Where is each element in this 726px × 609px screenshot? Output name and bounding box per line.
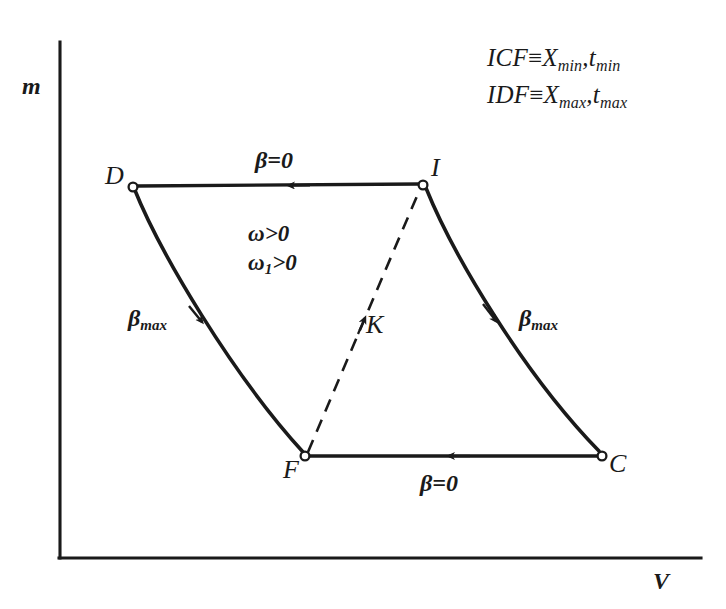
edge-D-I [137,184,420,186]
x-axis-label: V [653,569,669,593]
note-ICF-equiv: ≡ [528,44,542,71]
note-ICF-x: X [542,44,557,71]
condition-omega-1: ω1>0 [248,251,297,277]
note-IDF-equiv: ≡ [529,81,543,108]
note-ICF-x-sub: min [558,57,583,74]
edge-label-top-beta: β=0 [255,148,293,172]
edge-label-left-beta-max: βmax [128,306,167,333]
node-marker-I [419,181,428,190]
note-IDF-t: t [593,81,600,108]
node-label-K: K [366,312,383,338]
condition-omega-1-rel: >0 [272,250,297,275]
note-IDF: IDF≡Xmax,tmax [487,82,627,111]
note-ICF-t-sub: min [596,57,621,74]
node-label-I: I [431,155,440,181]
node-label-C: C [609,451,626,477]
note-IDF-lhs: IDF [487,81,529,108]
figure-canvas: m V ICF≡Xmin,tmin IDF≡Xmax,tmax D I F C … [0,0,726,609]
condition-omega: ω>0 [248,222,289,245]
edge-label-left-beta-glyph: β [128,305,140,331]
edge-label-right-beta-max: βmax [519,306,558,333]
edge-label-left-beta-sub: max [140,317,167,333]
note-IDF-t-sub: max [600,94,627,111]
edge-D-I-line [137,184,420,186]
node-marker-F [301,452,310,461]
node-label-F: F [283,457,299,483]
edge-F-I-dashed [308,189,420,452]
edge-label-right-beta-glyph: β [519,305,531,331]
edge-label-right-beta-sub: max [531,317,558,333]
note-ICF-lhs: ICF [487,44,528,71]
node-marker-D [129,183,138,192]
edge-F-I-arrow [358,318,365,334]
axis-lines [59,42,701,558]
node-marker-C [598,452,607,461]
condition-omega-1-glyph: ω [248,250,265,275]
edge-I-C-curve [426,188,599,451]
note-ICF: ICF≡Xmin,tmin [487,45,621,74]
note-IDF-x: X [544,81,559,108]
y-axis-label: m [22,74,41,98]
node-label-D: D [105,163,124,189]
note-ICF-t: t [589,44,596,71]
note-IDF-x-sub: max [559,94,586,111]
edge-I-C [426,188,599,451]
edge-label-bottom-beta: β=0 [420,471,458,495]
